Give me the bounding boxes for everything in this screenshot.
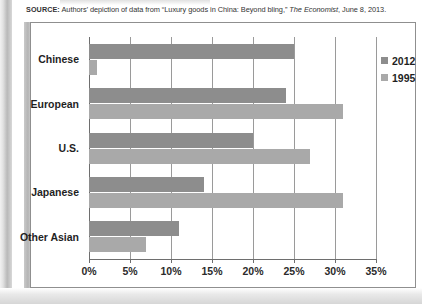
category-label-other-asian: Other Asian [20,231,79,243]
gridline-35pct [376,37,377,259]
category-label-chinese: Chinese [38,53,79,65]
x-tick-label-30pct: 30% [324,265,345,277]
source-label: SOURCE: [26,5,60,14]
bar-2012-japanese [89,177,204,192]
plot-area [89,37,376,259]
bar-1995-chinese [89,60,97,75]
x-tick-label-20pct: 20% [242,265,263,277]
bar-1995-other-asian [89,237,146,252]
x-tick-25pct [294,259,295,263]
source-note: SOURCE: Authors’ depiction of data from … [26,5,416,14]
x-tick-label-25pct: 25% [283,265,304,277]
legend-label-1995: 1995 [392,72,415,84]
x-tick-label-35pct: 35% [365,265,386,277]
legend-swatch-2012 [381,57,388,64]
chart-frame: 2012 1995 0%5%10%15%20%25%30%35%ChineseE… [30,22,416,288]
x-tick-label-15pct: 15% [201,265,222,277]
x-tick-label-0pct: 0% [81,265,96,277]
x-tick-15pct [212,259,213,263]
x-tick-5pct [130,259,131,263]
x-tick-10pct [171,259,172,263]
x-tick-label-10pct: 10% [160,265,181,277]
gridline-30pct [335,37,336,259]
x-tick-label-5pct: 5% [122,265,137,277]
source-publication: The Economist [289,5,338,14]
legend-item-1995: 1995 [381,70,422,85]
x-tick-20pct [253,259,254,263]
page-gutter-shading [0,0,12,304]
bar-2012-european [89,88,286,103]
source-text-after: , June 8, 2013. [338,5,386,14]
category-label-u-s: U.S. [59,142,79,154]
legend-swatch-1995 [381,74,388,81]
x-tick-30pct [335,259,336,263]
x-tick-0pct [89,259,90,263]
category-label-european: European [31,98,79,110]
legend-item-2012: 2012 [381,53,422,68]
chart-legend: 2012 1995 [381,53,422,87]
bar-1995-u-s [89,149,310,164]
source-text-before: Authors’ depiction of data from “Luxury … [60,5,289,14]
bar-2012-u-s [89,133,253,148]
x-axis-line [89,259,377,260]
bar-2012-other-asian [89,221,179,236]
legend-label-2012: 2012 [392,55,415,67]
bar-2012-chinese [89,44,294,59]
category-label-japanese: Japanese [31,186,79,198]
x-tick-35pct [376,259,377,263]
bar-1995-japanese [89,193,343,208]
bar-1995-european [89,104,343,119]
page-bottom-shading [0,288,422,304]
